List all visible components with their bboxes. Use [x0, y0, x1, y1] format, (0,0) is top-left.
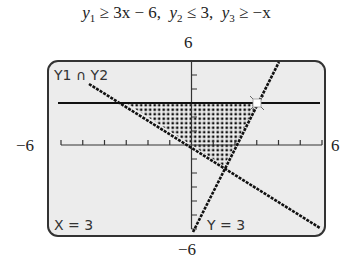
intersection-label: Y1 ∩ Y2 [53, 67, 108, 83]
calculator-graph-screen: Y1 ∩ Y2 X = 3 Y = 3 [0, 0, 353, 270]
screen-frame [48, 61, 325, 236]
y-readout: Y = 3 [206, 217, 245, 233]
x-readout: X = 3 [54, 217, 93, 233]
